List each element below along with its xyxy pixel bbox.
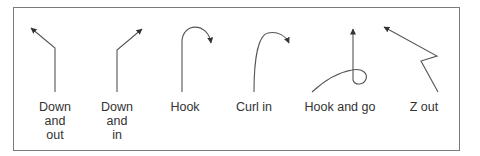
route-curl-in (254, 33, 289, 92)
route-diagram (0, 0, 480, 156)
route-hook-and-go (312, 29, 366, 92)
label-curl-in: Curl in (236, 100, 272, 114)
route-hook (182, 27, 211, 92)
label-down-and-in: Down and in (101, 100, 133, 142)
route-down-and-in (117, 29, 142, 92)
route-down-and-out (31, 28, 55, 92)
label-z-out: Z out (410, 100, 439, 114)
route-z-out (384, 27, 438, 92)
label-down-and-out: Down and out (39, 100, 71, 142)
label-hook-and-go: Hook and go (305, 100, 376, 114)
label-hook: Hook (170, 100, 199, 114)
